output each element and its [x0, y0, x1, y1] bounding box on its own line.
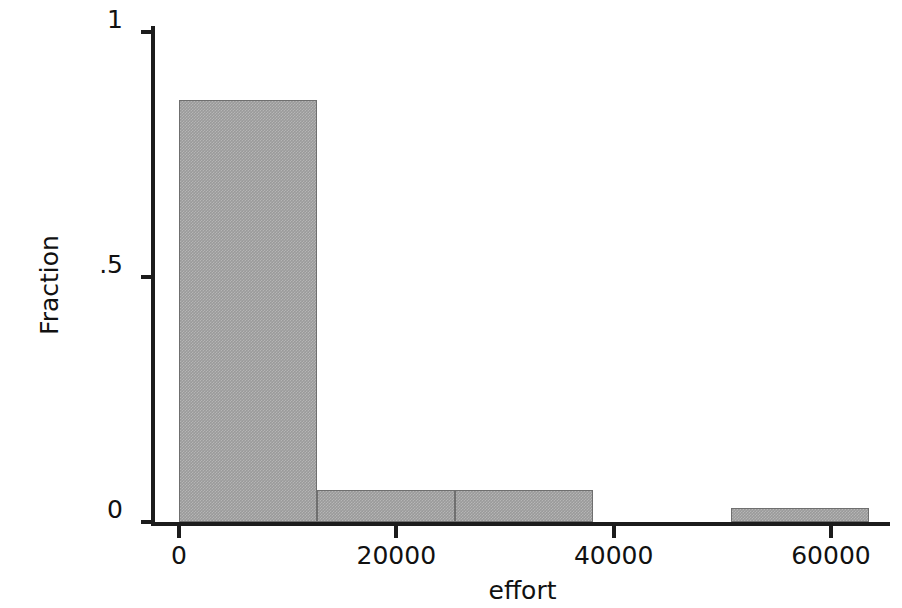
x-axis-tick	[394, 526, 398, 538]
y-axis-tick	[141, 30, 152, 34]
y-axis-tick-label: 1	[0, 7, 123, 32]
y-axis-tick-label: 0	[0, 497, 123, 522]
y-axis-tick-label-wrap: 0	[0, 510, 133, 535]
histogram-bar	[731, 508, 869, 522]
x-axis-tick-label: 60000	[791, 543, 871, 568]
y-axis-tick-label-wrap: 1	[0, 20, 133, 45]
histogram-bar	[455, 490, 593, 522]
y-axis-title-text: Fraction	[35, 235, 64, 335]
x-axis-title: effort	[155, 576, 890, 605]
bar-series	[0, 0, 902, 608]
x-axis-tick-label: 0	[171, 543, 187, 568]
histogram-bar	[317, 490, 455, 522]
y-axis-title: Fraction	[0, 271, 44, 300]
y-axis-tick	[141, 275, 152, 279]
x-axis-tick	[612, 526, 616, 538]
y-axis-tick	[141, 520, 152, 524]
histogram-bar	[179, 100, 317, 522]
histogram-figure: 0.51 0200004000060000 Fraction effort	[0, 0, 902, 608]
x-axis-tick-label: 20000	[357, 543, 437, 568]
x-axis-tick	[177, 526, 181, 538]
x-axis-tick	[829, 526, 833, 538]
x-axis-tick-label: 40000	[574, 543, 654, 568]
